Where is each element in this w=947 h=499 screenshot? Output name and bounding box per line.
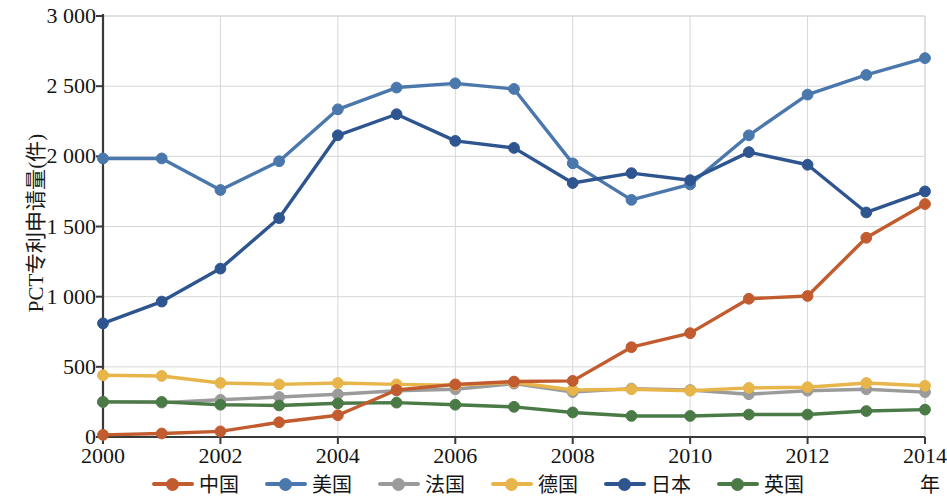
legend-label: 英国	[764, 469, 804, 498]
x-tick-label: 2012	[786, 443, 830, 469]
legend-item-美国[interactable]: 美国	[265, 469, 352, 498]
legend-label: 法国	[425, 469, 465, 498]
legend-marker-icon	[491, 477, 533, 491]
x-tick-label: 2000	[81, 443, 125, 469]
x-tick-label: 2002	[198, 443, 242, 469]
legend-marker-icon	[717, 477, 759, 491]
legend-label: 德国	[538, 469, 578, 498]
x-tick-label: 2008	[551, 443, 595, 469]
legend-item-法国[interactable]: 法国	[378, 469, 465, 498]
legend-label: 美国	[312, 469, 352, 498]
chart-legend: 中国美国法国德国日本英国	[0, 468, 945, 499]
legend-label: 日本	[651, 469, 691, 498]
legend-item-英国[interactable]: 英国	[717, 469, 804, 498]
legend-marker-icon	[604, 477, 646, 491]
x-tick-label: 2014	[903, 443, 947, 469]
x-tick-label: 2004	[316, 443, 360, 469]
x-tick-label: 2006	[433, 443, 477, 469]
legend-label: 中国	[199, 469, 239, 498]
legend-item-中国[interactable]: 中国	[152, 469, 239, 498]
legend-item-日本[interactable]: 日本	[604, 469, 691, 498]
x-tick-label: 2010	[668, 443, 712, 469]
legend-item-德国[interactable]: 德国	[491, 469, 578, 498]
legend-marker-icon	[378, 477, 420, 491]
legend-marker-icon	[152, 477, 194, 491]
legend-marker-icon	[265, 477, 307, 491]
